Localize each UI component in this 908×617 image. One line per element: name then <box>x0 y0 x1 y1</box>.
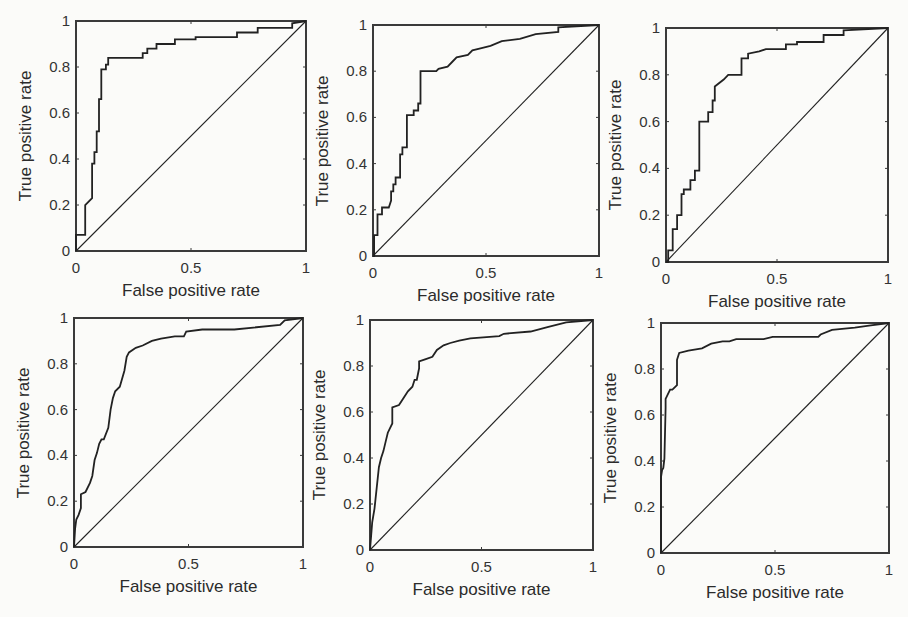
plot-area <box>0 0 908 617</box>
y-axis-label: True positive rate <box>601 373 621 504</box>
y-tick-label: 1 <box>647 315 655 330</box>
y-tick-label: 0.2 <box>634 499 655 514</box>
chance-diagonal-line <box>661 323 889 553</box>
x-tick-label: 0 <box>657 562 665 577</box>
y-tick-label: 0.8 <box>634 361 655 376</box>
y-tick-label: 0 <box>647 545 655 560</box>
y-tick-label: 0.4 <box>634 453 655 468</box>
x-tick-label: 1 <box>885 562 893 577</box>
x-tick-label: 0.5 <box>765 562 786 577</box>
roc-panel-bottom-right: 00.20.40.60.8100.51False positive rateTr… <box>0 0 908 617</box>
y-tick-label: 0.6 <box>634 407 655 422</box>
x-axis-label: False positive rate <box>706 583 844 603</box>
